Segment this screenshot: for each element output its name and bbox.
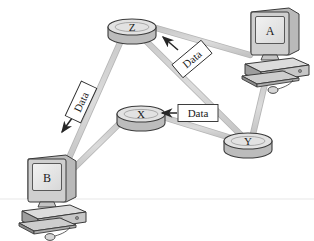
diagram-canvas: Z X Y A: [0, 0, 314, 241]
network-diagram: Z X Y A: [0, 0, 314, 241]
link-a-y: [253, 79, 266, 134]
router-x-label: X: [137, 108, 145, 120]
router-z-label: Z: [129, 21, 136, 33]
computer-a[interactable]: A: [242, 8, 309, 93]
computer-a-label: A: [266, 24, 275, 38]
data-arrow-y-to-z: [163, 37, 178, 50]
router-y[interactable]: Y: [224, 133, 272, 158]
mouse-icon: [45, 234, 55, 241]
computer-b-label: B: [43, 171, 51, 185]
power-led: [75, 216, 78, 219]
router-z[interactable]: Z: [108, 19, 156, 44]
power-led: [298, 69, 301, 72]
data-label-text: Data: [188, 107, 209, 119]
router-x[interactable]: X: [117, 106, 165, 131]
router-y-label: Y: [244, 135, 252, 147]
computer-b[interactable]: B: [19, 155, 86, 240]
mouse-icon: [268, 87, 278, 94]
